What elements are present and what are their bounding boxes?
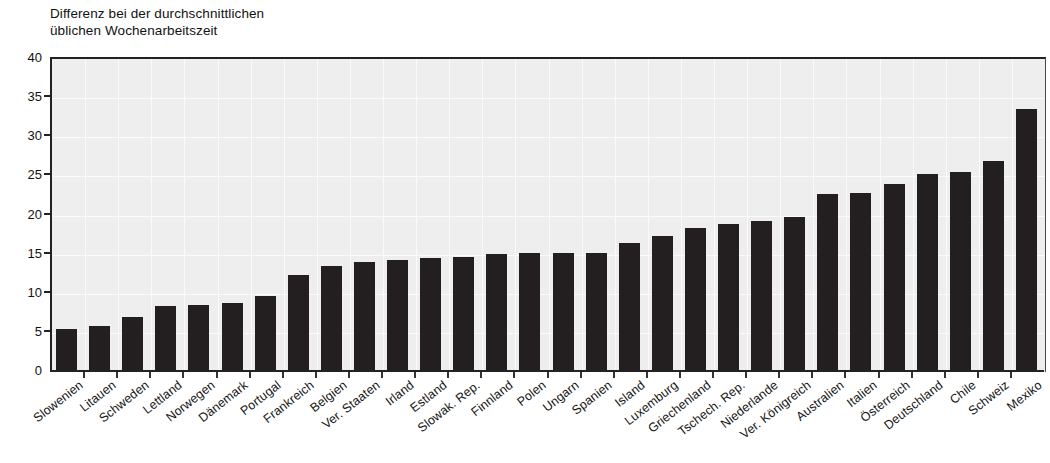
- bar: [619, 243, 640, 370]
- x-axis-tick: [580, 372, 582, 378]
- bar: [453, 257, 474, 370]
- x-axis-tick: [613, 372, 615, 378]
- y-axis-tick: [44, 95, 52, 97]
- bar: [420, 258, 441, 370]
- bar: [222, 303, 243, 370]
- x-axis-tick: [414, 372, 416, 378]
- x-axis-tick: [83, 372, 85, 378]
- bar: [255, 296, 276, 370]
- bar: [850, 193, 871, 370]
- x-axis-category-label: Slowenien: [30, 378, 85, 425]
- x-axis-tick: [116, 372, 118, 378]
- x-axis-tick: [878, 372, 880, 378]
- x-axis-tick: [977, 372, 979, 378]
- x-axis-tick: [1010, 372, 1012, 378]
- x-axis-tick: [480, 372, 482, 378]
- bar: [155, 306, 176, 370]
- chart-figure: Differenz bei der durchschnittlichen übl…: [0, 0, 1050, 463]
- y-axis-tick-label: 35: [28, 89, 42, 104]
- x-axis-tick: [249, 372, 251, 378]
- bar: [122, 317, 143, 370]
- bar: [817, 194, 838, 370]
- bar: [884, 184, 905, 370]
- x-axis-tick: [216, 372, 218, 378]
- bar: [188, 305, 209, 370]
- bar: [387, 260, 408, 370]
- x-axis-labels: SlowenienLitauenSchwedenLettlandNorwegen…: [50, 378, 1043, 463]
- x-axis-tick: [712, 372, 714, 378]
- x-axis-tick: [844, 372, 846, 378]
- x-axis-tick: [944, 372, 946, 378]
- y-axis-tick: [44, 213, 52, 215]
- x-axis-tick: [381, 372, 383, 378]
- x-axis-tick: [811, 372, 813, 378]
- y-axis-tick: [44, 173, 52, 175]
- x-axis-tick: [513, 372, 515, 378]
- bar: [718, 224, 739, 370]
- x-axis-tick: [447, 372, 449, 378]
- x-axis-category-label: Mexiko: [1005, 378, 1045, 414]
- bar: [652, 236, 673, 370]
- y-axis-tick-label: 10: [28, 284, 42, 299]
- bar: [983, 161, 1004, 370]
- x-axis-tick: [182, 372, 184, 378]
- bar: [917, 174, 938, 370]
- x-axis-tick: [679, 372, 681, 378]
- y-axis-tick: [44, 330, 52, 332]
- x-axis-tick: [282, 372, 284, 378]
- bar: [89, 326, 110, 370]
- bar: [950, 172, 971, 370]
- bar: [784, 217, 805, 370]
- x-axis-tick: [745, 372, 747, 378]
- x-axis-tick: [149, 372, 151, 378]
- y-axis-tick-label: 5: [35, 323, 42, 338]
- x-axis-tick: [778, 372, 780, 378]
- chart-title: Differenz bei der durchschnittlichen übl…: [50, 5, 570, 39]
- bar: [321, 266, 342, 370]
- bar: [354, 262, 375, 370]
- bar-series: [50, 57, 1043, 370]
- bar: [288, 275, 309, 370]
- x-axis-tick: [315, 372, 317, 378]
- bar: [486, 254, 507, 370]
- y-axis-tick-label: 40: [28, 50, 42, 65]
- x-axis-tick: [348, 372, 350, 378]
- x-axis-tick: [911, 372, 913, 378]
- y-axis-tick: [44, 134, 52, 136]
- bar: [56, 329, 77, 370]
- bar: [1016, 109, 1037, 370]
- bar: [751, 221, 772, 370]
- y-axis-tick-label: 30: [28, 128, 42, 143]
- y-axis-tick: [44, 291, 52, 293]
- bar: [553, 253, 574, 370]
- y-axis-tick: [44, 252, 52, 254]
- bar: [586, 253, 607, 370]
- y-axis-tick-label: 0: [35, 363, 42, 378]
- y-axis-tick-label: 20: [28, 206, 42, 221]
- bar: [519, 253, 540, 370]
- bar: [685, 228, 706, 370]
- x-axis-tick: [646, 372, 648, 378]
- y-axis-tick-label: 15: [28, 245, 42, 260]
- x-axis-tick: [547, 372, 549, 378]
- y-axis-tick-label: 25: [28, 167, 42, 182]
